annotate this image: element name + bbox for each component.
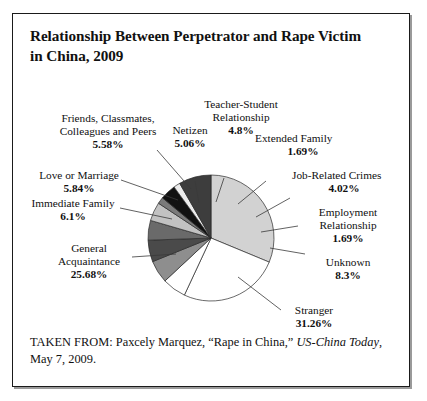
source-prefix: TAKEN FROM: Paxcely Marquez, “Rape in Ch…: [30, 335, 296, 349]
title-line-2: in China, 2009: [30, 46, 390, 66]
leader-line-love-marriage: [121, 180, 178, 200]
label-extended-family: Extended Family 1.69%: [255, 132, 385, 158]
source-publication: US-China Today: [296, 335, 379, 349]
label-stranger: Stranger 31.26%: [271, 304, 357, 330]
title-line-1: Relationship Between Perpetrator and Rap…: [30, 26, 390, 46]
label-love-or-marriage: Love or Marriage 5.84%: [30, 169, 128, 195]
pie-slice-group: [148, 175, 274, 301]
page-title: Relationship Between Perpetrator and Rap…: [30, 26, 390, 66]
leader-line-unknown: [270, 248, 305, 254]
label-unknown: Unknown 8.3%: [309, 256, 387, 282]
figure-box: Relationship Between Perpetrator and Rap…: [12, 13, 410, 387]
label-immediate-family: Immediate Family 6.1%: [24, 197, 122, 223]
pie-chart: Teacher-Student Relationship 4.8% Netize…: [13, 76, 409, 328]
source-citation: TAKEN FROM: Paxcely Marquez, “Rape in Ch…: [30, 334, 398, 368]
label-friends-classmates: Friends, Classmates, Colleagues and Peer…: [49, 112, 167, 152]
leader-line-friends: [157, 150, 191, 189]
label-general-acquaintance: General Acquaintance 25.68%: [43, 242, 135, 282]
label-employment-relationship: Employment Relationship 1.69%: [301, 206, 395, 246]
label-job-related-crimes: Job-Related Crimes 4.02%: [292, 169, 412, 195]
